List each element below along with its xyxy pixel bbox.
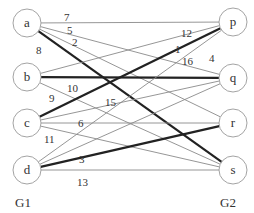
edges-layer xyxy=(38,22,221,170)
node-s: s xyxy=(219,156,247,184)
node-q: q xyxy=(219,64,247,92)
edge-weight-a-p: 7 xyxy=(64,11,70,23)
edge-weight-b-p: 12 xyxy=(181,27,192,39)
edge-weight-c-p: 1 xyxy=(175,43,181,55)
node-label: q xyxy=(230,70,237,85)
node-label: r xyxy=(231,115,236,130)
edge-weight-c-s: 11 xyxy=(44,133,55,145)
node-r: r xyxy=(219,109,247,137)
node-label: p xyxy=(230,14,237,29)
right-set-label: G2 xyxy=(220,195,236,210)
node-label: s xyxy=(230,162,235,177)
edge-weight-b-s: 9 xyxy=(49,92,55,104)
node-label: b xyxy=(24,69,31,84)
node-b: b xyxy=(13,63,41,91)
bipartite-graph-diagram: 752812109115611164313 abcdpqrs G1 G2 xyxy=(0,0,254,213)
edge-weight-a-q: 5 xyxy=(67,24,73,36)
node-c: c xyxy=(13,109,41,137)
edge-weight-d-p: 16 xyxy=(182,55,194,67)
node-label: d xyxy=(24,162,31,177)
node-label: a xyxy=(24,15,30,30)
edge-weight-c-r: 6 xyxy=(78,117,84,129)
left-set-label: G1 xyxy=(15,195,31,210)
node-d: d xyxy=(13,156,41,184)
edge-weight-d-q: 4 xyxy=(209,52,215,64)
node-p: p xyxy=(219,8,247,36)
edge-b-q xyxy=(41,77,219,78)
edge-weight-c-q: 15 xyxy=(105,96,117,108)
node-a: a xyxy=(13,9,41,37)
edge-weight-d-r: 3 xyxy=(79,153,85,165)
edge-weight-d-s: 13 xyxy=(77,176,89,188)
node-label: c xyxy=(24,115,30,130)
edge-weight-b-q: 10 xyxy=(67,82,79,94)
edge-weight-a-r: 2 xyxy=(72,36,78,48)
edge-weight-a-s: 8 xyxy=(36,44,42,56)
